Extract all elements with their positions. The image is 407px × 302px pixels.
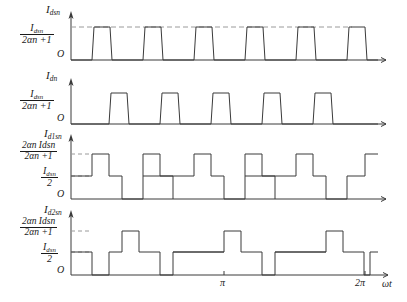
x-tick-label-pi: π <box>220 278 225 288</box>
panel-2-level-label: Idsn 2αn +1 <box>20 89 54 112</box>
panel-1-x-arrow <box>378 58 386 63</box>
panel-4-group <box>69 210 389 278</box>
panel-3-y-axis-label: Id1sn <box>44 128 62 141</box>
panel-3-origin-label: O <box>57 188 64 199</box>
panel-3-lower-level-label: Idsn 2 <box>41 166 58 189</box>
panel-4-waveform-trace <box>71 231 378 275</box>
waveform-diagram-canvas <box>0 0 407 302</box>
x-tick-label-2pi: 2π <box>355 278 365 288</box>
panel-4-y-axis-label: Id2sn <box>44 204 62 217</box>
panel-1-waveform-trace <box>71 27 378 60</box>
panel-3-waveform-trace <box>71 154 378 199</box>
panel-1-group <box>69 11 387 63</box>
x-axis-label: ωt <box>382 279 392 289</box>
panel-3-group <box>69 134 387 202</box>
panel-4-upper-level-label: 2αn Idsn 2αn +1 <box>20 217 57 238</box>
panel-2-origin-label: O <box>57 112 64 123</box>
panel-2-y-axis-label: Idn <box>46 70 57 83</box>
panel-1-level-label: Idsn 2αn +1 <box>20 23 54 46</box>
panel-4-x-arrow <box>378 273 388 278</box>
panel-4-origin-label: O <box>57 264 64 275</box>
panel-1-y-axis-label: Idsn <box>46 4 60 17</box>
panel-3-x-arrow <box>378 197 386 202</box>
panel-4-lower-level-label: Idsn 2 <box>41 242 58 265</box>
panel-1-origin-label: O <box>57 48 64 59</box>
panel-2-x-arrow <box>378 122 386 127</box>
panel-3-upper-level-label: 2αn Idsn 2αn +1 <box>20 141 57 162</box>
panel-2-waveform-trace <box>71 93 378 124</box>
panel-2-group <box>69 78 387 127</box>
